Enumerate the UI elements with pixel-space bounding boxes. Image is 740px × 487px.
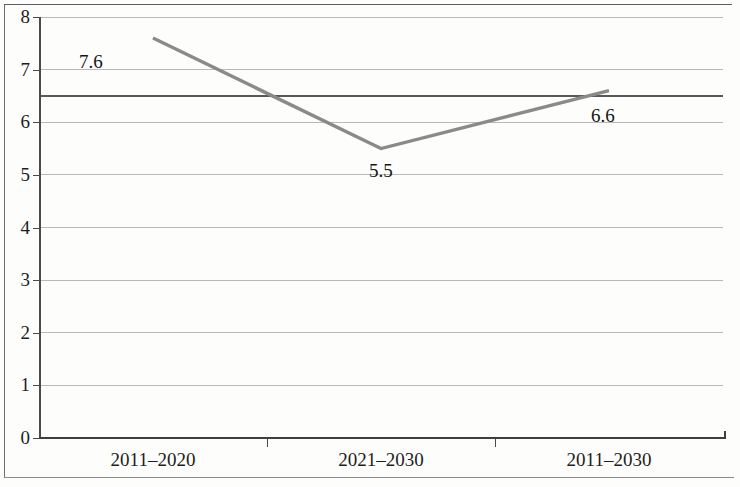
- data-series-svg: [0, 0, 740, 487]
- chart-page: 876543210 2011–20202021–20302011–2030 7.…: [0, 0, 740, 487]
- data-line-series-1: [153, 38, 609, 149]
- data-value-label-2: 5.5: [369, 161, 393, 180]
- data-value-label-3: 6.6: [591, 106, 615, 125]
- data-value-label-1: 7.6: [79, 52, 103, 71]
- plot-area: 876543210 2011–20202021–20302011–2030 7.…: [0, 0, 740, 487]
